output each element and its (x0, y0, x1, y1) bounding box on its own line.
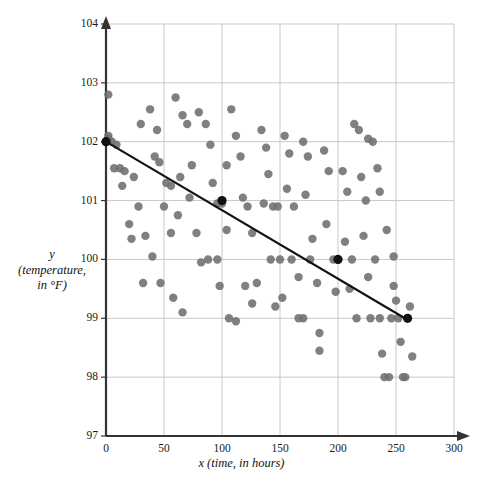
trend-line-group (101, 137, 412, 323)
x-axis-arrow-icon (457, 431, 470, 441)
x-tick-label: 300 (434, 443, 474, 455)
scatter-point (156, 279, 164, 287)
y-axis-arrow-icon (101, 16, 111, 29)
scatter-point (383, 226, 391, 234)
scatter-point (227, 105, 235, 113)
scatter-point (396, 338, 404, 346)
x-axis-title: x (time, in hours) (0, 456, 483, 472)
scatter-point (174, 211, 182, 219)
scatter-point (364, 273, 372, 281)
scatter-point (118, 182, 126, 190)
scatter-point (376, 314, 384, 322)
scatter-point (376, 188, 384, 196)
scatter-point (408, 352, 416, 360)
y-tick-label: 102 (58, 136, 98, 148)
scatter-point (294, 273, 302, 281)
trend-line (106, 142, 410, 322)
scatter-point (178, 111, 186, 119)
scatter-point (241, 282, 249, 290)
scatter-point (338, 167, 346, 175)
scatter-point (197, 258, 205, 266)
scatter-point (209, 179, 217, 187)
scatter-point (169, 293, 177, 301)
scatter-point (236, 152, 244, 160)
scatter-point (178, 308, 186, 316)
scatter-point (352, 314, 360, 322)
scatter-point (213, 255, 221, 263)
scatter-point (357, 173, 365, 181)
scatter-point (364, 135, 372, 143)
scatter-point (192, 229, 200, 237)
scatter-point (248, 299, 256, 307)
scatter-point (167, 229, 175, 237)
scatter-point (290, 202, 298, 210)
x-tick-label: 150 (260, 443, 300, 455)
scatter-point (125, 220, 133, 228)
trend-line-marked-point (101, 137, 110, 146)
scatter-point (153, 126, 161, 134)
scatter-point (215, 282, 223, 290)
scatter-point (350, 120, 358, 128)
y-tick-label: 100 (58, 253, 98, 265)
scatter-point (271, 302, 279, 310)
scatter-point (137, 120, 145, 128)
trend-line-marked-point (403, 314, 412, 323)
scatter-point (139, 279, 147, 287)
scatter-point (206, 140, 214, 148)
scatter-point (141, 232, 149, 240)
scatter-point (267, 255, 275, 263)
scatter-plot-figure: y (temperature, in °F) x (time, in hours… (0, 0, 483, 491)
scatter-point (183, 120, 191, 128)
scatter-point (273, 202, 281, 210)
scatter-point (239, 193, 247, 201)
scatter-point (343, 188, 351, 196)
scatter-point (348, 255, 356, 263)
y-tick-label: 104 (58, 18, 98, 30)
x-tick-label: 200 (318, 443, 358, 455)
scatter-point (320, 146, 328, 154)
scatter-point (341, 238, 349, 246)
scatter-point (313, 279, 321, 287)
scatter-point (299, 138, 307, 146)
scatter-point (285, 149, 293, 157)
y-tick-label: 97 (58, 430, 98, 442)
y-tick-label: 101 (58, 195, 98, 207)
scatter-point (260, 199, 268, 207)
scatter-point (257, 126, 265, 134)
scatter-point (385, 373, 393, 381)
scatter-point (308, 235, 316, 243)
scatter-point (188, 161, 196, 169)
scatter-point (280, 132, 288, 140)
scatter-point (148, 252, 156, 260)
plot-canvas (0, 0, 483, 491)
scatter-point (276, 255, 284, 263)
scatter-point (134, 202, 142, 210)
scatter-point (378, 349, 386, 357)
scatter-point (287, 255, 295, 263)
scatter-point (232, 132, 240, 140)
scatter-point (195, 108, 203, 116)
x-tick-label: 50 (144, 443, 184, 455)
scatter-point (146, 105, 154, 113)
scatter-point (315, 329, 323, 337)
scatter-point (294, 314, 302, 322)
y-axis-title-line1: y (49, 247, 55, 261)
scatter-point (325, 167, 333, 175)
scatter-point (283, 185, 291, 193)
y-tick-label: 103 (58, 77, 98, 89)
scatter-point (202, 120, 210, 128)
scatter-point (176, 173, 184, 181)
y-axis-title-line3: in °F) (37, 278, 67, 292)
scatter-point (262, 143, 270, 151)
scatter-point (331, 288, 339, 296)
scatter-point (155, 158, 163, 166)
scatter-point (304, 152, 312, 160)
scatter-point (160, 202, 168, 210)
scatter-point (264, 170, 272, 178)
scatter-point (127, 235, 135, 243)
x-tick-label: 0 (86, 443, 126, 455)
scatter-point (130, 173, 138, 181)
y-tick-label: 98 (58, 371, 98, 383)
y-tick-label: 99 (58, 312, 98, 324)
scatter-point (401, 373, 409, 381)
